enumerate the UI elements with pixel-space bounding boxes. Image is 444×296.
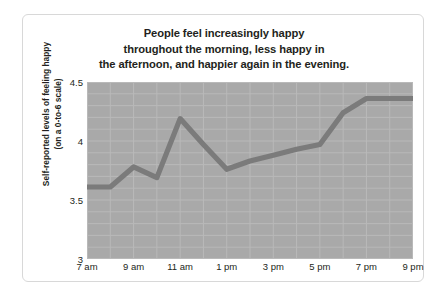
- plot-area: [87, 82, 413, 259]
- x-axis-tick: 9 am: [111, 261, 157, 272]
- x-axis-tick: 7 pm: [343, 261, 389, 272]
- x-axis-tick: 9 pm: [390, 261, 436, 272]
- y-axis-tick: 4.5: [57, 77, 83, 88]
- x-axis-tick: 7 am: [64, 261, 110, 272]
- chart-title-line-3: the afternoon, and happier again in the …: [23, 57, 425, 73]
- chart-figure: People feel increasingly happy throughou…: [22, 14, 424, 282]
- y-axis-tick: 4: [57, 136, 83, 147]
- y-axis-tick: 3.5: [57, 195, 83, 206]
- x-axis-tick: 11 am: [157, 261, 203, 272]
- chart-svg: [87, 82, 413, 259]
- chart-title-line-1: People feel increasingly happy: [23, 26, 425, 42]
- x-axis-tick: 3 pm: [250, 261, 296, 272]
- x-axis-tick: 1 pm: [204, 261, 250, 272]
- x-axis-tick-labels: 7 am9 am11 am1 pm3 pm5 pm7 pm9 pm: [87, 261, 413, 277]
- chart-title: People feel increasingly happy throughou…: [23, 26, 425, 73]
- chart-title-line-2: throughout the morning, less happy in: [23, 42, 425, 58]
- y-axis-tick-labels: 4.543.53: [51, 82, 83, 259]
- x-axis-tick: 5 pm: [297, 261, 343, 272]
